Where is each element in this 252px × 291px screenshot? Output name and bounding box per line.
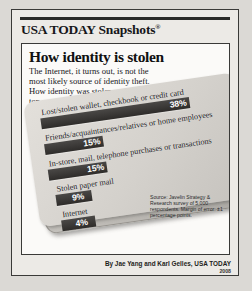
- brand-name: USA TODAY Snapshots: [21, 22, 155, 37]
- credit-line: By Jae Yang and Karl Gelles, USA TODAY: [12, 260, 240, 267]
- bar-value-label: 15%: [83, 136, 102, 149]
- registered-mark-icon: ®: [155, 23, 160, 31]
- bar-value-label: 15%: [86, 162, 105, 175]
- credit-card-graphic: Lost/stolen wallet, checkbook or credit …: [21, 70, 230, 252]
- chart-panel: How identity is stolen The Internet, it …: [21, 43, 230, 255]
- source-note: Source: Javelin Strategy & Research surv…: [150, 194, 224, 218]
- bar-value-label: 38%: [169, 97, 188, 110]
- brand-title: USA TODAY Snapshots®: [21, 22, 231, 40]
- snapshot-infographic: USA TODAY Snapshots® How identity is sto…: [0, 0, 252, 291]
- bar-value-label: 4%: [75, 217, 89, 230]
- outer-frame: USA TODAY Snapshots® How identity is sto…: [11, 9, 239, 276]
- header-rule: [20, 17, 230, 20]
- page-title: How identity is stolen: [29, 48, 164, 66]
- bar-value-label: 9%: [71, 191, 85, 204]
- year-label: 2008: [12, 268, 240, 274]
- bar-rows: Lost/stolen wallet, checkbook or credit …: [21, 70, 230, 252]
